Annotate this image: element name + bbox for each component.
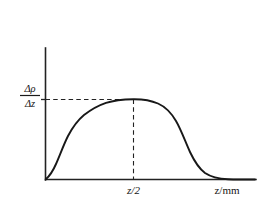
density-gradient-plot: Δρ Δz z/2 z/mm <box>0 0 263 209</box>
y-axis-label-denominator: Δz <box>24 98 35 109</box>
plot-background <box>0 0 263 209</box>
y-axis-label-numerator: Δρ <box>23 83 35 94</box>
x-axis-label: z/mm <box>214 184 239 196</box>
figure-container: Δρ Δz z/2 z/mm <box>0 0 263 209</box>
x-axis-tick-label-half-z: z/2 <box>126 184 140 196</box>
